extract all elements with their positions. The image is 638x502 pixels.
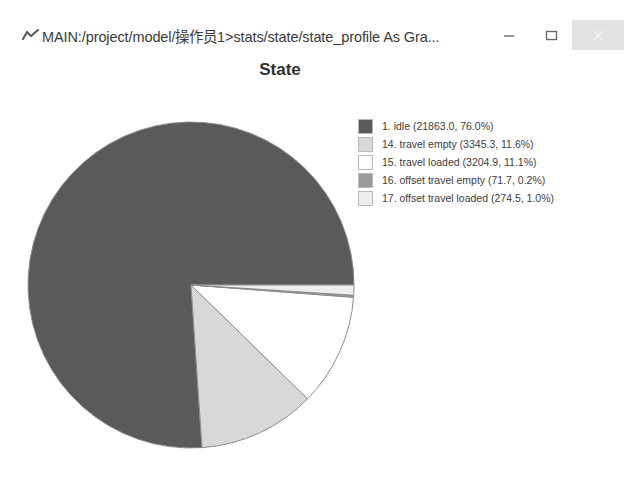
pie-chart [26,118,356,452]
chart-legend: 1. idle (21863.0, 76.0%) 14. travel empt… [358,117,620,207]
legend-swatch [358,137,373,152]
legend-swatch [358,155,373,170]
chart-icon [22,27,39,44]
pie-chart-svg [26,118,356,452]
legend-label: 15. travel loaded (3204.9, 11.1%) [382,156,537,168]
chart-window: MAIN:/project/model/操作员1>stats/state/sta… [0,0,638,502]
legend-swatch [358,191,373,206]
window-title: MAIN:/project/model/操作员1>stats/state/sta… [42,25,439,46]
legend-label: 1. idle (21863.0, 76.0%) [382,120,494,132]
minimize-button[interactable] [488,20,530,50]
legend-swatch [358,173,373,188]
legend-item[interactable]: 16. offset travel empty (71.7, 0.2%) [358,171,620,189]
legend-label: 17. offset travel loaded (274.5, 1.0%) [382,192,554,204]
legend-label: 16. offset travel empty (71.7, 0.2%) [382,174,545,186]
legend-item[interactable]: 1. idle (21863.0, 76.0%) [358,117,620,135]
legend-label: 14. travel empty (3345.3, 11.6%) [382,138,534,150]
maximize-button[interactable] [530,20,572,50]
legend-item[interactable]: 17. offset travel loaded (274.5, 1.0%) [358,189,620,207]
close-icon [591,28,606,43]
legend-item[interactable]: 14. travel empty (3345.3, 11.6%) [358,135,620,153]
minimize-icon [503,29,516,42]
legend-item[interactable]: 15. travel loaded (3204.9, 11.1%) [358,153,620,171]
maximize-icon [545,29,558,42]
window-titlebar: MAIN:/project/model/操作员1>stats/state/sta… [0,18,638,52]
legend-swatch [358,119,373,134]
chart-title: State [0,60,560,80]
close-button[interactable] [572,20,624,50]
